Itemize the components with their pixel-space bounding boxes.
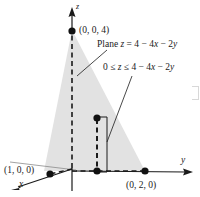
plane-label-minus: − 2 xyxy=(158,39,173,49)
plane-label-prefix: Plane xyxy=(97,39,120,49)
x-axis-label: x xyxy=(19,180,23,190)
inequality-mid: ≤ 4 − 4 xyxy=(121,62,151,72)
point-dot-z-intercept xyxy=(68,27,75,34)
inequality-label: 0 ≤ z ≤ 4 − 4x − 2y xyxy=(103,63,174,73)
plane-equation-label: Plane z = 4 − 4x − 2y xyxy=(97,40,177,50)
point-dot-segment-bottom xyxy=(93,167,100,174)
y-axis-label: y xyxy=(181,156,185,166)
point-label-x-intercept: (1, 0, 0) xyxy=(4,166,34,176)
plane-label-equals: = 4 − 4 xyxy=(124,39,154,49)
shaded-plane-region xyxy=(44,30,145,171)
point-dot-x-intercept xyxy=(46,170,53,177)
inequality-var-y: y xyxy=(170,62,174,72)
point-label-z-intercept: (0, 0, 4) xyxy=(79,26,109,36)
z-axis-arrowhead xyxy=(69,7,76,17)
inequality-lead: 0 ≤ xyxy=(103,62,118,72)
y-axis-arrowhead xyxy=(183,169,193,176)
point-dot-segment-top xyxy=(93,114,100,121)
solid-region-figure: z y x (0, 0, 4) (1, 0, 0) (0, 2, 0) Plan… xyxy=(0,0,200,197)
point-label-y-intercept: (0, 2, 0) xyxy=(126,181,156,191)
point-dot-y-intercept xyxy=(141,167,148,174)
z-axis-label: z xyxy=(76,3,79,11)
page-edge-artifact xyxy=(192,86,199,100)
plane-label-var-y: y xyxy=(173,39,177,49)
inequality-minus: − 2 xyxy=(155,62,170,72)
